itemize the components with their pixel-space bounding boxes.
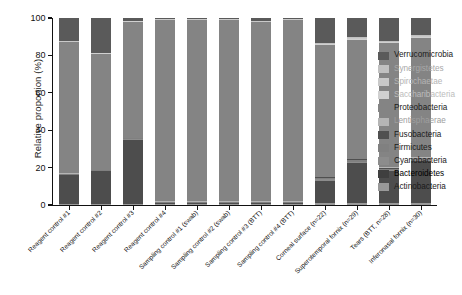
x-tick-label: Sampling control #1 (swab) bbox=[137, 209, 198, 270]
bar-segment bbox=[315, 45, 334, 176]
x-tick-mark bbox=[165, 205, 166, 210]
bar-segment bbox=[123, 140, 142, 205]
x-tick-label: Inferonasal fornix (n=30) bbox=[367, 209, 423, 265]
legend-label: Fusobacteria bbox=[394, 131, 441, 139]
legend-item-lentisphaerae[interactable]: Lentisphaerae bbox=[378, 115, 455, 128]
legend-label: Spirochaetae bbox=[394, 78, 442, 86]
legend-item-actinobacteria[interactable]: Actinobacteria bbox=[378, 181, 455, 194]
legend-swatch bbox=[378, 144, 389, 152]
y-tick-label: 60 bbox=[35, 88, 45, 98]
x-tick-mark bbox=[389, 205, 390, 210]
y-tick-20: 20 bbox=[35, 163, 52, 173]
y-tick-label: 80 bbox=[35, 50, 45, 60]
legend-swatch bbox=[378, 78, 389, 86]
legend-label: Actinobacteria bbox=[394, 183, 446, 191]
bar-segment bbox=[251, 22, 270, 201]
x-tick-label: Superotemporal fornix (n=29) bbox=[293, 209, 359, 275]
y-tick-60: 60 bbox=[35, 88, 52, 98]
legend-label: Bacteroidetes bbox=[394, 170, 444, 178]
x-tick-mark bbox=[293, 205, 294, 210]
bar-column[interactable] bbox=[315, 18, 334, 205]
x-tick-mark bbox=[357, 205, 358, 210]
bar-column[interactable] bbox=[283, 18, 302, 205]
y-tick-40: 40 bbox=[35, 125, 52, 135]
bar-segment bbox=[91, 54, 110, 170]
legend-label: Cyanobacteria bbox=[394, 157, 447, 165]
bar-segment bbox=[379, 18, 398, 41]
bar-segment bbox=[283, 20, 302, 201]
y-axis-ticks: 020406080100 bbox=[0, 0, 52, 295]
x-tick-mark bbox=[133, 205, 134, 210]
y-tick-label: 40 bbox=[35, 125, 45, 135]
y-tick-label: 20 bbox=[35, 163, 45, 173]
legend-swatch bbox=[378, 52, 389, 60]
legend-label: Verrucomicrobia bbox=[394, 51, 453, 59]
legend-item-spirochaetae[interactable]: Spirochaetae bbox=[378, 75, 455, 88]
x-tick-mark bbox=[229, 205, 230, 210]
legend-swatch bbox=[378, 131, 389, 139]
legend-swatch bbox=[378, 65, 389, 73]
x-tick-mark bbox=[261, 205, 262, 210]
bar-segment bbox=[411, 18, 430, 35]
bar-segment bbox=[347, 18, 366, 37]
bar-segment bbox=[315, 181, 334, 203]
bar-column[interactable] bbox=[155, 18, 174, 205]
legend-item-saccharibacteria[interactable]: Saccharibacteria bbox=[378, 89, 455, 102]
legend-label: Firmicutes bbox=[394, 144, 432, 152]
legend-swatch bbox=[378, 104, 389, 112]
bar-segment bbox=[59, 18, 78, 41]
bar-column[interactable] bbox=[123, 18, 142, 205]
legend-item-proteobacteria[interactable]: Proteobacteria bbox=[378, 102, 455, 115]
x-tick-mark bbox=[69, 205, 70, 210]
bar-segment bbox=[155, 20, 174, 201]
bar-segment bbox=[347, 40, 366, 159]
legend-item-bacteroidetes[interactable]: Bacteroidetes bbox=[378, 168, 455, 181]
bar-segment bbox=[91, 18, 110, 52]
bar-segment bbox=[59, 175, 78, 204]
bar-column[interactable] bbox=[347, 18, 366, 205]
bar-segment bbox=[59, 42, 78, 173]
x-tick-mark bbox=[101, 205, 102, 210]
legend-item-fusobacteria[interactable]: Fusobacteria bbox=[378, 128, 455, 141]
legend-item-cyanobacteria[interactable]: Cyanobacteria bbox=[378, 155, 455, 168]
legend-label: Lentisphaerae bbox=[394, 117, 446, 125]
bar-segment bbox=[187, 20, 206, 201]
legend-label: Proteobacteria bbox=[394, 104, 447, 112]
bar-column[interactable] bbox=[251, 18, 270, 205]
legend-label: Synergistetes bbox=[394, 65, 444, 73]
bar-segment bbox=[91, 171, 110, 204]
x-tick-mark bbox=[197, 205, 198, 210]
x-tick-label: Sampling control #3 (BTT) bbox=[204, 209, 263, 268]
legend-swatch bbox=[378, 118, 389, 126]
y-tick-0: 0 bbox=[40, 200, 52, 210]
legend-swatch bbox=[378, 91, 389, 99]
legend-item-verrucomicrobia[interactable]: Verrucomicrobia bbox=[378, 49, 455, 62]
legend-item-firmicutes[interactable]: Firmicutes bbox=[378, 141, 455, 154]
bar-segment bbox=[219, 20, 238, 201]
bar-column[interactable] bbox=[187, 18, 206, 205]
legend: VerrucomicrobiaSynergistetesSpirochaetae… bbox=[378, 49, 455, 194]
y-tick-80: 80 bbox=[35, 50, 52, 60]
x-tick-mark bbox=[325, 205, 326, 210]
bar-segment bbox=[347, 163, 366, 203]
legend-swatch bbox=[378, 170, 389, 178]
bar-column[interactable] bbox=[59, 18, 78, 205]
bar-column[interactable] bbox=[219, 18, 238, 205]
bar-segment bbox=[315, 18, 334, 43]
stacked-bar-chart-figure: Relative proportion (%) 020406080100 Rea… bbox=[0, 0, 462, 295]
y-tick-label: 100 bbox=[30, 13, 45, 23]
x-tick-label: Sampling control #2 (swab) bbox=[169, 209, 230, 270]
bar-column[interactable] bbox=[91, 18, 110, 205]
legend-swatch bbox=[378, 183, 389, 191]
bar-segment bbox=[123, 22, 142, 138]
y-tick-label: 0 bbox=[40, 200, 45, 210]
legend-item-synergistetes[interactable]: Synergistetes bbox=[378, 62, 455, 75]
legend-swatch bbox=[378, 157, 389, 165]
x-tick-label: Sampling control #4 (BTT) bbox=[236, 209, 295, 268]
y-tick-100: 100 bbox=[30, 13, 52, 23]
x-tick-mark bbox=[421, 205, 422, 210]
x-axis-line bbox=[52, 205, 437, 206]
legend-label: Saccharibacteria bbox=[394, 91, 455, 99]
